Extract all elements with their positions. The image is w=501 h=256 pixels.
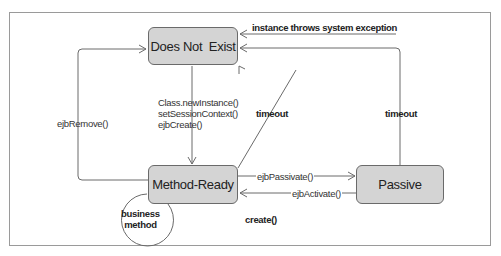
state-passive: Passive (356, 165, 444, 204)
label-system-exception: instance throws system exception (252, 22, 397, 33)
label-ejb-remove: ejbRemove() (57, 118, 108, 129)
label-business-method: business method (121, 208, 160, 230)
label-ejb-activate: ejbActivate() (291, 188, 342, 199)
label-create-call: create() (245, 214, 277, 225)
label-create-transition: Class.newInstance() setSessionContext() … (158, 97, 238, 130)
state-diagram: Does Not Exist Method-Ready Passive Clas… (0, 0, 501, 256)
state-label: Does Not Exist (150, 39, 235, 54)
label-ejb-passivate: ejbPassivate() (256, 171, 314, 182)
label-timeout-passive: timeout (385, 108, 417, 119)
state-label: Passive (378, 177, 421, 192)
state-label: Method-Ready (152, 177, 234, 192)
label-timeout-ready: timeout (256, 108, 288, 119)
state-does-not-exist: Does Not Exist (148, 27, 238, 65)
state-method-ready: Method-Ready (148, 165, 238, 204)
